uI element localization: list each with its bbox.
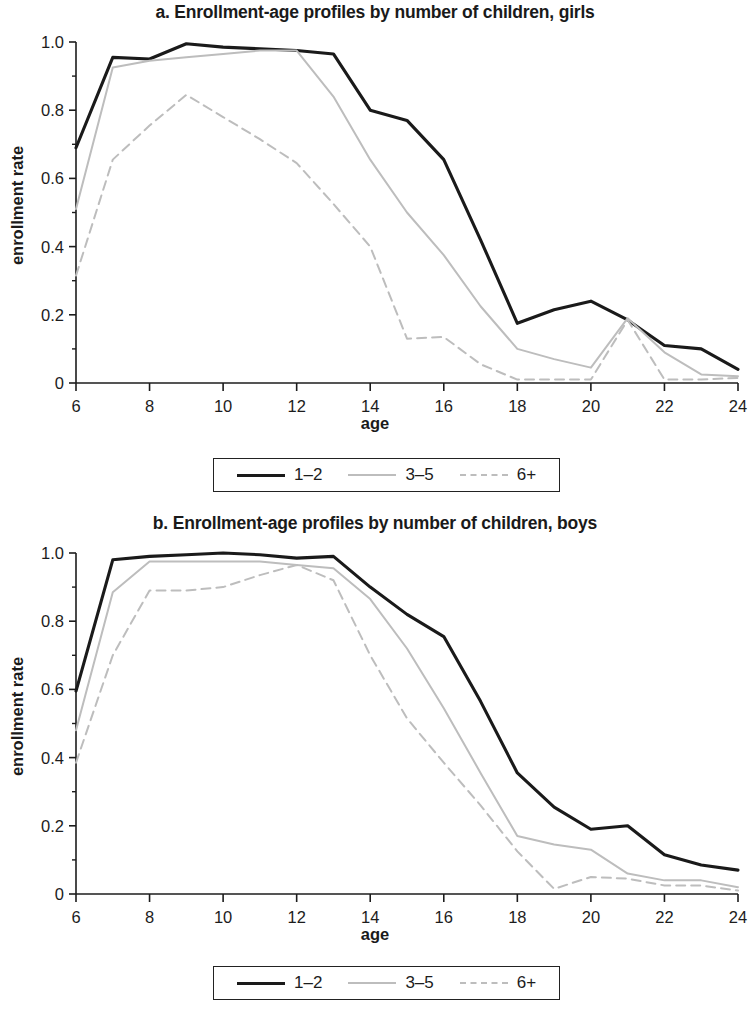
panel-a-legend: 1–23–56+ <box>213 458 560 492</box>
panel-a-svg: 00.20.40.60.81.0681012141618202224 <box>0 0 750 430</box>
y-tick-label: 0 <box>55 885 64 903</box>
y-tick-label: 0 <box>55 374 64 392</box>
y-tick-label: 0.2 <box>41 306 64 324</box>
x-tick-label: 22 <box>655 908 673 926</box>
legend-swatch-6-icon <box>460 474 508 476</box>
chart-panel-girls: a. Enrollment-age profiles by number of … <box>0 0 750 511</box>
x-tick-label: 10 <box>214 397 232 415</box>
figure-page: a. Enrollment-age profiles by number of … <box>0 0 750 1023</box>
legend-entry: 6+ <box>447 465 549 485</box>
legend-label: 6+ <box>517 465 536 485</box>
x-tick-label: 6 <box>71 908 80 926</box>
series-line-35 <box>76 51 738 377</box>
panel-b-svg: 00.20.40.60.81.0681012141618202224 <box>0 511 750 941</box>
panel-a-xlabel: age <box>0 414 750 433</box>
y-tick-label: 0.4 <box>41 238 64 256</box>
y-tick-label: 0.6 <box>41 169 64 187</box>
x-tick-label: 14 <box>361 397 379 415</box>
x-tick-label: 10 <box>214 908 232 926</box>
x-tick-label: 12 <box>287 397 305 415</box>
legend-swatch-35-icon <box>348 474 396 476</box>
panel-b-ylabel: enrollment rate <box>8 632 27 802</box>
x-tick-label: 6 <box>71 397 80 415</box>
legend-entry: 1–2 <box>224 465 335 485</box>
legend-label: 6+ <box>517 973 536 993</box>
y-tick-label: 1.0 <box>41 544 64 562</box>
chart-panel-boys: b. Enrollment-age profiles by number of … <box>0 511 750 1022</box>
x-tick-label: 20 <box>582 908 600 926</box>
y-tick-label: 0.4 <box>41 749 64 767</box>
legend-swatch-35-icon <box>348 982 396 984</box>
x-tick-label: 14 <box>361 908 379 926</box>
panel-b-legend: 1–23–56+ <box>213 966 560 1000</box>
x-tick-label: 12 <box>287 908 305 926</box>
legend-entry: 3–5 <box>335 973 446 993</box>
x-tick-label: 22 <box>655 397 673 415</box>
legend-entry: 6+ <box>447 973 549 993</box>
y-tick-label: 0.8 <box>41 612 64 630</box>
y-tick-label: 0.2 <box>41 817 64 835</box>
x-tick-label: 16 <box>435 908 453 926</box>
x-tick-label: 16 <box>435 397 453 415</box>
legend-entry: 1–2 <box>224 973 335 993</box>
legend-label: 3–5 <box>405 973 433 993</box>
panel-a-ylabel: enrollment rate <box>8 121 27 291</box>
x-tick-label: 8 <box>145 908 154 926</box>
y-tick-label: 1.0 <box>41 33 64 51</box>
panel-b-plot-area: 00.20.40.60.81.0681012141618202224 enrol… <box>0 511 750 941</box>
legend-label: 3–5 <box>405 465 433 485</box>
panel-a-plot-area: 00.20.40.60.81.0681012141618202224 enrol… <box>0 0 750 430</box>
x-tick-label: 24 <box>729 908 747 926</box>
legend-label: 1–2 <box>294 465 322 485</box>
x-tick-label: 24 <box>729 397 747 415</box>
legend-label: 1–2 <box>294 973 322 993</box>
legend-swatch-12-icon <box>237 474 285 477</box>
legend-entry: 3–5 <box>335 465 446 485</box>
x-tick-label: 20 <box>582 397 600 415</box>
y-tick-label: 0.8 <box>41 101 64 119</box>
y-tick-label: 0.6 <box>41 680 64 698</box>
x-tick-label: 18 <box>508 908 526 926</box>
legend-swatch-6-icon <box>460 982 508 984</box>
series-line-35 <box>76 562 738 888</box>
series-line-12 <box>76 44 738 370</box>
x-tick-label: 18 <box>508 397 526 415</box>
legend-swatch-12-icon <box>237 982 285 985</box>
panel-b-xlabel: age <box>0 925 750 944</box>
series-line-12 <box>76 553 738 870</box>
x-tick-label: 8 <box>145 397 154 415</box>
series-line-6 <box>76 95 738 380</box>
